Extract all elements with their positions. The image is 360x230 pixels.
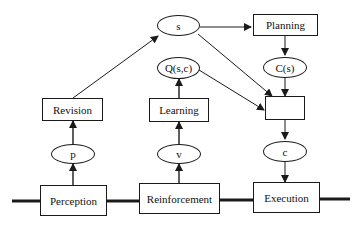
percept-node-p: p <box>51 144 95 164</box>
reinforcement-box: Reinforcement <box>139 183 220 214</box>
edge-s-decision <box>198 34 272 96</box>
command-label: c <box>283 146 288 158</box>
q-value-label: Q(s,c) <box>165 62 192 74</box>
value-label: v <box>176 148 182 160</box>
edge-revision-s <box>73 36 158 98</box>
execution-box: Execution <box>253 182 320 213</box>
diagram-canvas: s Planning Q(s,c) C(s) Revision Learning… <box>0 0 360 230</box>
perception-box: Perception <box>40 185 107 216</box>
cost-node: C(s) <box>263 57 307 78</box>
cost-label: C(s) <box>276 62 295 74</box>
value-node-v: v <box>157 144 201 164</box>
revision-box: Revision <box>42 98 103 121</box>
execution-label: Execution <box>264 192 309 204</box>
learning-box: Learning <box>149 98 209 122</box>
perception-label: Perception <box>50 195 97 207</box>
state-label: s <box>176 20 180 32</box>
planning-box: Planning <box>253 14 318 36</box>
learning-label: Learning <box>159 104 199 116</box>
reinforcement-label: Reinforcement <box>147 193 212 205</box>
q-value-node: Q(s,c) <box>157 57 200 79</box>
planning-label: Planning <box>266 19 305 31</box>
state-node-s: s <box>157 15 200 36</box>
revision-label: Revision <box>53 104 92 116</box>
decision-box <box>265 96 305 120</box>
command-node-c: c <box>263 141 307 162</box>
percept-label: p <box>70 148 76 160</box>
